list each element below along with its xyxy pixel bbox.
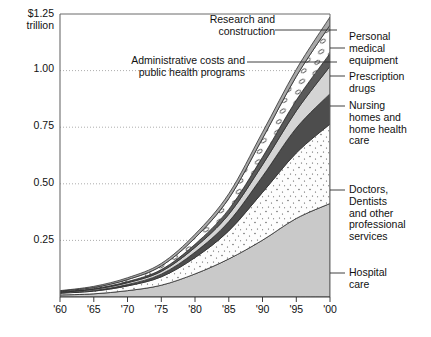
x-tick-label-00: '00: [312, 304, 348, 316]
x-tick-label-80: '80: [177, 304, 213, 316]
x-tick-label-60: '60: [42, 304, 78, 316]
callout-hospital-care: Hospital care: [349, 267, 431, 291]
callout-administrative-costs: Administrative costs and public health p…: [95, 55, 245, 79]
callout-personal-medical-equipment: Personal medical equipment: [349, 31, 431, 66]
y-tick-label-0.25: 0.25: [0, 234, 54, 246]
callout-prescription-drugs: Prescription drugs: [349, 71, 431, 95]
x-tick-label-90: '90: [245, 304, 281, 316]
x-tick-label-70: '70: [110, 304, 146, 316]
x-tick-label-95: '95: [278, 304, 314, 316]
x-tick-label-75: '75: [143, 304, 179, 316]
y-tick-label-1.00: 1.00: [0, 63, 54, 75]
callout-research-and-construction: Research and construction: [155, 14, 275, 38]
y-tick-label-0.50: 0.50: [0, 177, 54, 189]
callout-nursing-homes-home-health-care: Nursing homes and home health care: [349, 100, 431, 147]
callout-doctors-dentists-professional-services: Doctors, Dentists and other professional…: [349, 184, 431, 243]
x-tick-label-65: '65: [76, 304, 112, 316]
y-tick-label-0.75: 0.75: [0, 120, 54, 132]
x-tick-label-85: '85: [211, 304, 247, 316]
y-axis-unit-label: $1.25 trillion: [0, 8, 54, 31]
